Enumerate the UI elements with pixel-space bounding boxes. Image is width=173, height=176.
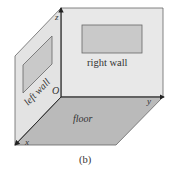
axis-x-label: x xyxy=(24,137,29,147)
origin-label: O xyxy=(52,85,59,96)
axis-z-label: z xyxy=(54,12,59,22)
figure-caption: (b) xyxy=(79,154,92,166)
room-diagram: z y x O right wall left wall floor (b) xyxy=(0,0,173,176)
right-wall-label: right wall xyxy=(87,57,128,68)
right-wall-window xyxy=(82,25,142,53)
floor-label: floor xyxy=(73,113,93,124)
axis-y-label: y xyxy=(146,96,151,106)
